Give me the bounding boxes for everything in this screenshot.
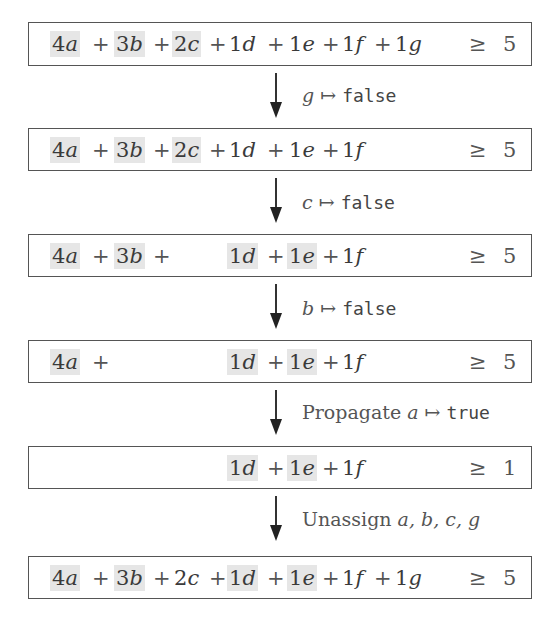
geq-sign: ≥ xyxy=(469,455,487,481)
term-1e: 1e xyxy=(287,243,317,269)
term-1d: 1d xyxy=(227,565,258,591)
down-arrow-icon xyxy=(270,207,282,223)
term-1f: 1f xyxy=(342,243,363,269)
down-arrow-icon xyxy=(270,419,282,435)
term-2c: 2c xyxy=(172,31,201,57)
constraint-box-2: 4a + 3b + 2c + 1d + 1e + 1f ≥ 5 xyxy=(28,128,532,171)
rhs-value: 5 xyxy=(503,31,516,57)
plus-sign: + xyxy=(267,565,285,591)
plus-sign: + xyxy=(322,565,340,591)
geq-sign: ≥ xyxy=(469,349,487,375)
term-3b: 3b xyxy=(114,137,145,163)
constraint-box-6: 4a + 3b + 2c + 1d + 1e + 1f + 1g ≥ 5 xyxy=(28,556,532,599)
down-arrow-icon xyxy=(270,313,282,329)
plus-sign: + xyxy=(153,565,171,591)
term-1f: 1f xyxy=(342,455,363,481)
plus-sign: + xyxy=(267,31,285,57)
down-arrow-shaft xyxy=(275,496,277,526)
rhs-value: 5 xyxy=(503,565,516,591)
term-1e: 1e xyxy=(287,349,317,375)
term-4a: 4a xyxy=(50,137,80,163)
constraint-box-3: 4a + 3b + 1d + 1e + 1f ≥ 5 xyxy=(28,234,532,277)
plus-sign: + xyxy=(92,349,110,375)
plus-sign: + xyxy=(267,243,285,269)
plus-sign: + xyxy=(209,565,227,591)
term-2c: 2c xyxy=(174,565,199,591)
term-1e: 1e xyxy=(287,565,317,591)
down-arrow-shaft xyxy=(275,73,277,103)
constraint-box-5: 1d + 1e + 1f ≥ 1 xyxy=(28,446,532,489)
plus-sign: + xyxy=(153,243,171,269)
term-1d: 1d xyxy=(227,349,258,375)
cutoff-caption-fragment xyxy=(0,0,556,4)
plus-sign: + xyxy=(92,137,110,163)
term-2c: 2c xyxy=(172,137,201,163)
term-1d: 1d xyxy=(229,31,256,57)
term-1e: 1e xyxy=(287,455,317,481)
constraint-box-4: 4a + 1d + 1e + 1f ≥ 5 xyxy=(28,340,532,383)
plus-sign: + xyxy=(322,137,340,163)
term-3b: 3b xyxy=(114,565,145,591)
constraint-box-1: 4a + 3b + 2c + 1d + 1e + 1f + 1g ≥ 5 xyxy=(28,22,532,66)
step-label-2: c ↦ false xyxy=(302,191,395,213)
plus-sign: + xyxy=(267,455,285,481)
plus-sign: + xyxy=(267,349,285,375)
term-1f: 1f xyxy=(342,31,363,57)
geq-sign: ≥ xyxy=(469,243,487,269)
term-4a: 4a xyxy=(50,349,80,375)
rhs-value: 5 xyxy=(503,137,516,163)
plus-sign: + xyxy=(322,455,340,481)
term-1f: 1f xyxy=(342,565,363,591)
term-1d: 1d xyxy=(227,455,258,481)
geq-sign: ≥ xyxy=(469,137,487,163)
step-label-3: b ↦ false xyxy=(302,297,396,319)
down-arrow-shaft xyxy=(275,284,277,314)
term-1f: 1f xyxy=(342,349,363,375)
term-1g: 1g xyxy=(395,31,422,57)
term-4a: 4a xyxy=(50,243,80,269)
down-arrow-shaft xyxy=(275,178,277,208)
plus-sign: + xyxy=(374,31,392,57)
term-1g: 1g xyxy=(395,565,422,591)
term-1e: 1e xyxy=(289,31,315,57)
term-4a: 4a xyxy=(50,565,80,591)
plus-sign: + xyxy=(322,349,340,375)
term-4a: 4a xyxy=(50,31,80,57)
geq-sign: ≥ xyxy=(469,565,487,591)
plus-sign: + xyxy=(267,137,285,163)
plus-sign: + xyxy=(374,565,392,591)
plus-sign: + xyxy=(153,31,171,57)
down-arrow-icon xyxy=(270,525,282,541)
term-1e: 1e xyxy=(289,137,315,163)
term-3b: 3b xyxy=(114,243,145,269)
plus-sign: + xyxy=(322,243,340,269)
step-label-4: Propagate a ↦ true xyxy=(302,401,490,423)
step-label-5: Unassign a, b, c, g xyxy=(302,508,480,530)
term-1f: 1f xyxy=(342,137,363,163)
step-label-1: g ↦ false xyxy=(302,84,396,106)
down-arrow-shaft xyxy=(275,390,277,420)
plus-sign: + xyxy=(209,31,227,57)
plus-sign: + xyxy=(92,243,110,269)
down-arrow-icon xyxy=(270,102,282,118)
geq-sign: ≥ xyxy=(469,31,487,57)
term-1d: 1d xyxy=(229,137,256,163)
plus-sign: + xyxy=(209,137,227,163)
rhs-value: 5 xyxy=(503,349,516,375)
term-1d: 1d xyxy=(227,243,258,269)
plus-sign: + xyxy=(322,31,340,57)
term-3b: 3b xyxy=(114,31,145,57)
rhs-value: 5 xyxy=(503,243,516,269)
rhs-value: 1 xyxy=(503,455,516,481)
plus-sign: + xyxy=(92,565,110,591)
plus-sign: + xyxy=(92,31,110,57)
plus-sign: + xyxy=(153,137,171,163)
